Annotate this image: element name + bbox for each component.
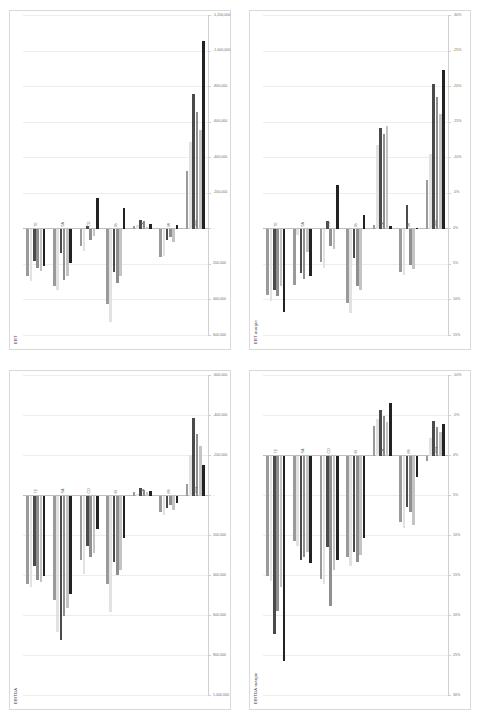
- axis-tick: [448, 122, 451, 123]
- bar: [276, 229, 279, 296]
- bar-group: [316, 376, 343, 696]
- bar: [86, 496, 89, 546]
- bar-group: [422, 16, 449, 336]
- axis-tick: [208, 228, 211, 229]
- axis-tick-label: -1,200,000: [213, 13, 230, 17]
- bar: [303, 229, 306, 279]
- bar: [172, 496, 175, 510]
- axis-tick: [208, 375, 211, 376]
- axis-tick-label: 600,000: [213, 612, 226, 616]
- chart-title: EBITDA: [13, 687, 18, 703]
- bar: [109, 229, 112, 321]
- axis-tick-label: 15%: [453, 572, 460, 576]
- bar: [69, 229, 72, 263]
- bar: [266, 229, 269, 294]
- axis-tick: [208, 335, 211, 336]
- category-label: IB: [354, 450, 358, 453]
- bar: [359, 229, 362, 290]
- bar: [26, 496, 29, 584]
- category-label: WW: [194, 486, 198, 493]
- chart-title: EBT: [13, 335, 18, 344]
- bar: [56, 229, 59, 289]
- axis-tick: [448, 228, 451, 229]
- bar: [202, 465, 205, 496]
- bar: [202, 41, 205, 229]
- category-label: TE: [34, 222, 38, 227]
- axis-tick-label: 400,000: [213, 297, 226, 301]
- bar: [186, 484, 189, 496]
- bar: [270, 229, 273, 301]
- bar: [426, 180, 429, 230]
- axis-tick: [208, 157, 211, 158]
- axis-tick-label: -25%: [453, 48, 461, 52]
- bar: [163, 229, 166, 256]
- bar: [426, 456, 429, 461]
- bar: [43, 496, 46, 576]
- axis-tick: [208, 51, 211, 52]
- bar: [416, 228, 419, 229]
- bar: [409, 456, 412, 512]
- bar-group: [182, 376, 209, 696]
- bar: [169, 496, 172, 505]
- axis-tick-label: -: [213, 492, 214, 496]
- axis-tick-label: -600,000: [213, 119, 227, 123]
- axis-tick: [208, 575, 211, 576]
- axis-tick: [208, 695, 211, 696]
- axis-tick: [448, 86, 451, 87]
- axis-tick: [208, 495, 211, 496]
- bar-group: [422, 376, 449, 696]
- bar-group: [23, 376, 50, 696]
- category-label: IB: [114, 490, 118, 493]
- category-label: LA: [141, 489, 145, 493]
- bar: [96, 496, 99, 529]
- bar: [412, 229, 415, 269]
- bar: [136, 493, 139, 495]
- bar: [270, 456, 273, 581]
- bar: [349, 456, 352, 566]
- x-axis: [208, 16, 209, 336]
- bar-group: [156, 16, 183, 336]
- bar: [336, 185, 339, 229]
- bar: [30, 229, 33, 281]
- category-label: LA: [381, 449, 385, 453]
- bar: [33, 496, 36, 566]
- bar: [442, 424, 445, 456]
- plot-area: [23, 16, 209, 336]
- bar: [40, 229, 43, 271]
- axis-tick: [208, 535, 211, 536]
- panel-ebt: EBT600,000400,000200,000--200,000-400,00…: [0, 0, 240, 360]
- axis-tick-label: 20%: [453, 612, 460, 616]
- axis-tick-label: 1,000,000: [213, 692, 229, 696]
- category-label: CO: [87, 488, 91, 493]
- bar: [116, 229, 119, 282]
- bar: [192, 418, 195, 496]
- panel-ebitda-margin: EBITDA margin30%25%20%15%10%5%0%-5%-10%T…: [240, 360, 480, 719]
- bar: [432, 84, 435, 229]
- bar: [149, 491, 152, 496]
- bar: [192, 94, 195, 229]
- axis-tick-label: -30%: [453, 13, 461, 17]
- bar: [176, 496, 179, 503]
- bar: [186, 171, 189, 230]
- bar-group: [396, 376, 423, 696]
- bar: [89, 229, 92, 240]
- category-label: MI: [407, 223, 411, 227]
- x-axis: [208, 376, 209, 696]
- panel-ebt-margin: EBT margin15%10%5%0%-5%-10%-15%-20%-25%-…: [240, 0, 480, 360]
- bar: [189, 142, 192, 229]
- axis-tick-label: 600,000: [213, 333, 226, 337]
- bar: [353, 229, 356, 257]
- axis-tick-label: -10%: [453, 155, 461, 159]
- bar: [303, 456, 306, 557]
- bar: [333, 229, 336, 249]
- category-label: TE: [274, 448, 278, 453]
- bar: [383, 134, 386, 229]
- bar: [323, 456, 326, 584]
- axis-tick: [208, 655, 211, 656]
- axis-tick-label: -10%: [453, 372, 461, 376]
- bar: [306, 456, 309, 552]
- axis-tick-label: -20%: [453, 84, 461, 88]
- bar: [106, 229, 109, 304]
- bar: [403, 456, 406, 528]
- axis-tick-label: 200,000: [213, 262, 226, 266]
